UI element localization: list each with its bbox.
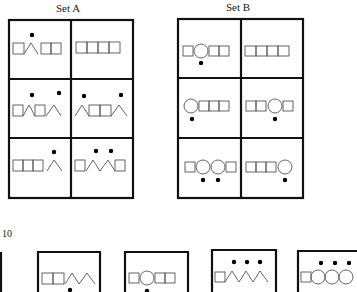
diagram-canvas (0, 0, 357, 292)
